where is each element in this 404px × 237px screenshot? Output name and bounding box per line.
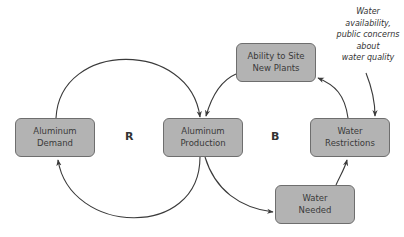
node-label-line1: Water — [337, 126, 362, 138]
annotation-line: public concerns — [330, 29, 404, 41]
causal-loop-diagram: Aluminum Demand Aluminum Production Abil… — [0, 0, 404, 237]
arrow-restrictions-to-ability — [318, 78, 348, 118]
node-label-line1: Water — [302, 193, 327, 205]
node-label-line2: Needed — [299, 205, 332, 217]
external-factor-annotation: Water availability, public concerns abou… — [330, 6, 404, 64]
annotation-line: availability, — [330, 18, 404, 30]
node-water-needed: Water Needed — [275, 185, 355, 224]
node-label-line1: Aluminum — [33, 126, 76, 138]
node-label-line2: Demand — [37, 138, 73, 150]
node-aluminum-demand: Aluminum Demand — [15, 118, 95, 157]
node-water-restrictions: Water Restrictions — [310, 118, 390, 157]
arrow-ability-to-production — [206, 74, 236, 116]
loop-label-reinforcing: R — [125, 130, 133, 143]
arrow-production-to-demand — [58, 157, 200, 218]
arrow-annotation-to-restrictions — [366, 73, 375, 116]
arrow-production-to-water-needed — [205, 157, 273, 212]
annotation-line: Water — [330, 6, 404, 18]
node-label-line1: Aluminum — [181, 126, 224, 138]
node-label-line2: New Plants — [252, 63, 299, 75]
arrow-demand-to-production — [56, 59, 200, 118]
node-label-line2: Restrictions — [325, 138, 375, 150]
annotation-line: water quality — [330, 52, 404, 64]
node-label-line1: Ability to Site — [248, 51, 305, 63]
annotation-line: about — [330, 41, 404, 53]
node-ability-to-site: Ability to Site New Plants — [236, 43, 316, 82]
node-aluminum-production: Aluminum Production — [163, 118, 243, 157]
node-label-line2: Production — [180, 138, 225, 150]
arrow-water-needed-to-restrictions — [336, 160, 347, 185]
loop-label-balancing: B — [271, 130, 279, 143]
